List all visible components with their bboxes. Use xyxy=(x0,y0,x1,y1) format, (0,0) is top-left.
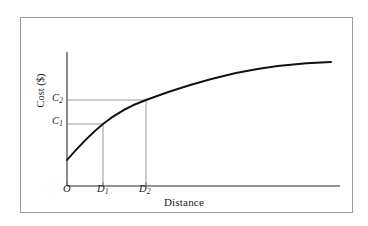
axis-label-c1-subscript: 1 xyxy=(59,120,63,128)
axis-label-c1: C1 xyxy=(52,116,63,127)
figure-root: O D1 D2 C1 C2 Distance Cost ($) xyxy=(0,0,368,226)
axis-label-d2-base: D xyxy=(139,183,147,194)
axis-label-d1: D1 xyxy=(97,184,108,195)
x-axis-title: Distance xyxy=(0,196,368,208)
axis-label-d1-subscript: 1 xyxy=(105,188,109,196)
axis-label-d1-base: D xyxy=(97,183,105,194)
axis-label-d2-subscript: 2 xyxy=(147,188,151,196)
axis-label-c1-base: C xyxy=(52,115,59,126)
y-axis-title: Cost ($) xyxy=(35,46,46,136)
axis-label-d2: D2 xyxy=(139,184,150,195)
axis-label-c2-subscript: 2 xyxy=(59,97,63,105)
axis-label-c2-base: C xyxy=(52,92,59,103)
axis-label-origin: O xyxy=(63,184,71,195)
axis-label-c2: C2 xyxy=(52,93,63,104)
plot-area-svg xyxy=(0,0,368,226)
cost-distance-curve xyxy=(67,62,331,160)
